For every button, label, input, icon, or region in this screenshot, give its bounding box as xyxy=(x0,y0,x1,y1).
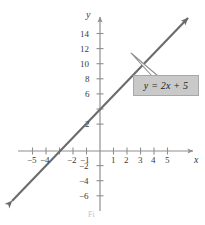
x-axis-group xyxy=(18,148,193,155)
coordinate-plane-plot xyxy=(0,0,205,225)
y-tick-label--6: −6 xyxy=(79,192,89,201)
y-tick-label-2: 2 xyxy=(85,120,90,129)
x-tick-label-5: 5 xyxy=(165,156,170,165)
x-axis-label: x xyxy=(194,155,198,165)
y-tick-label-8: 8 xyxy=(85,75,90,84)
y-axis-group xyxy=(97,17,104,211)
figure-container: y x −5 −4 −2 −1 1 2 3 4 5 −6 −4 −2 2 6 8… xyxy=(0,0,205,225)
x-tick-label--5: −5 xyxy=(27,156,37,165)
x-tick-label--2: −2 xyxy=(67,156,77,165)
caption-fragment: Fi xyxy=(88,211,95,219)
y-tick-label-14: 14 xyxy=(80,30,89,39)
y-tick-label--4: −4 xyxy=(79,177,89,186)
x-tick-label-1: 1 xyxy=(111,156,116,165)
y-tick-label-10: 10 xyxy=(80,60,89,69)
equation-callout-box: y = 2x + 5 xyxy=(133,75,199,96)
equation-callout-text: y = 2x + 5 xyxy=(144,80,188,91)
y-axis-label: y xyxy=(86,10,90,20)
x-tick-label-3: 3 xyxy=(138,156,143,165)
y-tick-label--2: −2 xyxy=(79,162,89,171)
x-tick-label-4: 4 xyxy=(151,156,156,165)
x-tick-label-2: 2 xyxy=(124,156,129,165)
x-tick-label--4: −4 xyxy=(40,156,50,165)
y-tick-label-6: 6 xyxy=(85,90,90,99)
y-tick-label-12: 12 xyxy=(80,45,89,54)
